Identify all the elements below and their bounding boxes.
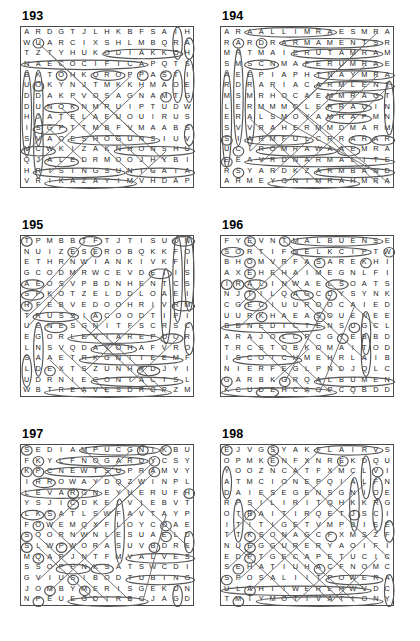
letter-cell: R	[301, 509, 312, 520]
letter-cell: U	[336, 236, 347, 247]
letter-cell: S	[44, 509, 55, 520]
letter-cell: R	[336, 133, 347, 144]
letter-cell: E	[67, 385, 78, 396]
letter-cell: L	[278, 573, 289, 584]
letter-cell: R	[290, 37, 301, 48]
letter-cell: N	[370, 289, 381, 300]
letter-cell: E	[301, 246, 312, 257]
letter-cell: D	[32, 91, 43, 102]
letter-cell: A	[301, 155, 312, 166]
letter-cell: A	[301, 278, 312, 289]
letter-grid[interactable]: ARDGTJLHKBFSAIHWUARCIXSHLMBQRATZTYHUKODI…	[20, 26, 194, 188]
letter-cell: R	[290, 144, 301, 155]
letter-cell: P	[232, 455, 243, 466]
puzzle-193: 193ARDGTJLHKBFSAIHWUARCIXSHLMBQRATZTYHUK…	[20, 10, 206, 217]
letter-cell: P	[136, 101, 147, 112]
letter-cell: B	[347, 165, 358, 176]
letter-cell: O	[44, 332, 55, 343]
letter-cell: K	[221, 385, 232, 396]
letter-cell: M	[78, 583, 89, 594]
letter-cell: R	[55, 257, 66, 268]
letter-grid[interactable]: EJVGSYAKFLAIRVSOPMKENFXNREKDQUYOOZNCATFX…	[220, 444, 394, 606]
letter-cell: T	[267, 583, 278, 594]
letter-cell: O	[278, 477, 289, 488]
letter-cell: C	[170, 278, 181, 289]
letter-cell: T	[78, 123, 89, 134]
letter-cell: O	[44, 268, 55, 279]
letter-cell: L	[90, 27, 101, 38]
letter-cell: I	[55, 445, 66, 456]
puzzle-page: 193ARDGTJLHKBFSAIHWUARCIXSHLMBQRATZTYHUK…	[0, 0, 420, 641]
letter-cell: Q	[21, 155, 32, 166]
letter-cell: F	[113, 123, 124, 134]
letter-cell: A	[136, 48, 147, 59]
letter-cell: J	[255, 332, 266, 343]
letter-cell: K	[159, 257, 170, 268]
letter-cell: I	[124, 101, 135, 112]
letter-cell: O	[232, 466, 243, 477]
letter-cell: R	[232, 176, 243, 187]
letter-cell: M	[232, 594, 243, 605]
letter-cell: N	[113, 364, 124, 375]
letter-cell: D	[170, 562, 181, 573]
letter-cell: V	[147, 257, 158, 268]
letter-cell: K	[244, 530, 255, 541]
letter-cell: V	[159, 551, 170, 562]
letter-cell: E	[221, 551, 232, 562]
letter-cell: R	[301, 48, 312, 59]
letter-cell: R	[101, 246, 112, 257]
letter-cell: G	[324, 332, 335, 343]
letter-cell: A	[159, 509, 170, 520]
letter-cell: R	[267, 155, 278, 166]
letter-grid[interactable]: ARAALLIMRAESMRARARDRARMAMENTSRMRTMAIERUT…	[220, 26, 394, 188]
letter-cell: M	[382, 48, 393, 59]
letter-cell: O	[244, 466, 255, 477]
letter-cell: S	[55, 278, 66, 289]
letter-cell: I	[370, 353, 381, 364]
letter-cell: O	[324, 300, 335, 311]
letter-cell: S	[21, 353, 32, 364]
letter-cell: E	[382, 310, 393, 321]
letter-cell: M	[324, 342, 335, 353]
letter-cell: D	[232, 551, 243, 562]
letter-cell: O	[170, 332, 181, 343]
letter-cell: L	[55, 455, 66, 466]
letter-cell: I	[124, 353, 135, 364]
letter-cell: F	[170, 257, 181, 268]
letter-cell: P	[55, 562, 66, 573]
letter-cell: Y	[159, 155, 170, 166]
letter-cell: P	[359, 246, 370, 257]
letter-cell: R	[324, 455, 335, 466]
letter-cell: L	[101, 530, 112, 541]
letter-cell: T	[44, 48, 55, 59]
letter-cell: D	[55, 268, 66, 279]
letter-cell: E	[232, 321, 243, 332]
letter-cell: C	[290, 551, 301, 562]
letter-cell: N	[90, 487, 101, 498]
letter-grid[interactable]: FYEVNTMALBUENSESORTIFDELKCIPTWBHOMVRFASA…	[220, 235, 394, 397]
letter-cell: Q	[78, 519, 89, 530]
letter-cell: T	[336, 509, 347, 520]
letter-cell: M	[244, 176, 255, 187]
letter-grid[interactable]: TPMBBTFTJTISUONNUIZESEROBQKKFOETHRNWIANK…	[20, 235, 194, 397]
letter-cell: G	[336, 268, 347, 279]
letter-cell: O	[278, 91, 289, 102]
letter-cell: R	[324, 59, 335, 70]
letter-cell: K	[147, 246, 158, 257]
letter-cell: L	[370, 364, 381, 375]
letter-grid[interactable]: SEDIAMPUCGNIKBUFKYLFNOGARDYCSYKPCNEWTSUP…	[20, 444, 194, 606]
letter-cell: C	[147, 374, 158, 385]
letter-cell: Y	[90, 477, 101, 488]
letter-cell: S	[182, 59, 193, 70]
letter-cell: A	[301, 385, 312, 396]
letter-cell: R	[370, 176, 381, 187]
letter-cell: A	[147, 466, 158, 477]
letter-cell: I	[124, 48, 135, 59]
letter-cell: I	[382, 257, 393, 268]
letter-cell: A	[244, 27, 255, 38]
letter-cell: A	[159, 27, 170, 38]
letter-cell: M	[359, 27, 370, 38]
letter-cell: A	[290, 466, 301, 477]
letter-cell: E	[313, 278, 324, 289]
letter-cell: A	[170, 519, 181, 530]
